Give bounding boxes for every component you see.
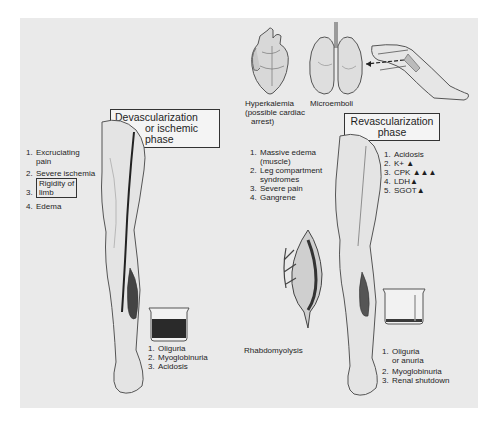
lab-finding-item: 1.Acidosis xyxy=(384,150,436,159)
increase-arrow-icon: ▲ xyxy=(406,159,414,168)
revascularization-lab-findings: 1.Acidosis 2.K+ ▲ 3.CPK ▲▲▲ 4.LDH▲ 5.SGO… xyxy=(384,150,436,195)
symptom-item: 3.Rigidity oflimb xyxy=(26,178,95,198)
urine-finding-item: 3.Acidosis xyxy=(148,362,208,371)
symptom-item: 1.Excruciating xyxy=(26,148,95,157)
muscle-illustration xyxy=(282,230,332,330)
lab-finding-item: 3.CPK ▲▲▲ xyxy=(384,168,436,177)
increase-arrow-icon: ▲▲▲ xyxy=(413,168,437,177)
urine-finding-item: 2.Myoglobinuria xyxy=(382,367,449,376)
urine-finding-item: 3.Renal shutdown xyxy=(382,376,449,385)
lab-finding-item: 5.SGOT▲ xyxy=(384,186,436,195)
local-effect-item: 1.Massive edema xyxy=(250,148,322,157)
rhabdomyolysis-label: Rhabdomyolysis xyxy=(244,346,303,355)
urine-finding-item: 1.Oliguria xyxy=(382,347,449,356)
increase-arrow-icon: ▲ xyxy=(410,177,418,186)
revascularization-urine-findings: 1.Oliguria or anuria 2.Myoglobinuria 3.R… xyxy=(382,347,449,385)
local-effect-item: 3.Severe pain xyxy=(250,184,322,193)
urine-finding-item: 1.Oliguria xyxy=(148,344,208,353)
heart-icon xyxy=(248,26,296,96)
right-beaker-clear-urine-icon xyxy=(381,287,427,325)
symptom-item: 2.Severe ischemia xyxy=(26,169,95,178)
revascularization-local-effects: 1.Massive edema (muscle) 2.Leg compartme… xyxy=(250,148,322,202)
hyperkalemia-label-line3: arrest) xyxy=(245,117,305,126)
lab-finding-item: 4.LDH▲ xyxy=(384,177,436,186)
left-beaker-dark-urine-icon xyxy=(147,306,191,342)
urine-finding-item: 2.Myoglobinuria xyxy=(148,353,208,362)
rigidity-of-limb-box: Rigidity oflimb xyxy=(36,178,77,198)
microemboli-label: Microemboli xyxy=(310,99,353,108)
leg-icon xyxy=(362,40,472,102)
hyperkalemia-label-line2: (possible cardiac xyxy=(245,108,305,117)
hyperkalemia-label-line1: Hyperkalemia xyxy=(245,99,305,108)
devascularization-symptoms-list: 1.Excruciating pain 2.Severe ischemia 3.… xyxy=(26,148,95,211)
symptom-item: 4.Edema xyxy=(26,202,95,211)
increase-arrow-icon: ▲ xyxy=(417,186,425,195)
local-effect-item: 4.Gangrene xyxy=(250,193,322,202)
lab-finding-item: 2.K+ ▲ xyxy=(384,159,436,168)
hyperkalemia-label: Hyperkalemia (possible cardiac arrest) xyxy=(245,99,305,126)
local-effect-item: 2.Leg compartment xyxy=(250,166,322,175)
devascularization-urine-findings: 1.Oliguria 2.Myoglobinuria 3.Acidosis xyxy=(148,344,208,371)
right-leg-illustration xyxy=(326,132,388,402)
lungs-icon xyxy=(308,22,364,96)
